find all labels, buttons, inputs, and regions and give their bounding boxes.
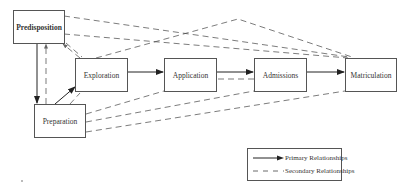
stray-mark [21, 180, 23, 182]
dashed-line-icon [250, 165, 286, 177]
node-exploration-label: Exploration [84, 71, 119, 80]
node-preparation: Preparation [34, 104, 86, 138]
edge-preparation-exploration-dashed [70, 93, 80, 104]
node-exploration: Exploration [75, 58, 128, 92]
node-predisposition: Predisposition [13, 10, 65, 44]
edge-predisposition-matriculation-upper [64, 16, 349, 57]
flow-diagram: Predisposition Exploration Application A… [0, 0, 408, 193]
legend-secondary-label: Secondary Relationships [285, 165, 354, 177]
edge-exploration-predisposition [63, 44, 80, 58]
legend: Primary Relationships Secondary Relation… [247, 148, 342, 181]
node-preparation-label: Preparation [43, 117, 78, 126]
edge-predisposition-exploration-dash [66, 43, 82, 57]
node-matriculation: Matriculation [345, 58, 397, 92]
node-admissions: Admissions [254, 58, 307, 92]
edge-predisposition-matriculation-lower [64, 34, 348, 58]
node-matriculation-label: Matriculation [351, 71, 392, 80]
node-predisposition-label: Predisposition [16, 23, 62, 32]
legend-primary-label: Primary Relationships [285, 152, 347, 164]
node-application: Application [164, 58, 217, 92]
edge-preparation-matriculation [86, 91, 345, 132]
node-admissions-label: Admissions [263, 71, 298, 80]
edge-preparation-application [86, 91, 164, 114]
edge-preparation-admissions [86, 91, 254, 122]
legend-secondary: Secondary Relationships [248, 165, 341, 177]
node-application-label: Application [173, 71, 208, 80]
legend-primary: Primary Relationships [248, 152, 341, 164]
solid-arrow-icon [250, 152, 286, 164]
